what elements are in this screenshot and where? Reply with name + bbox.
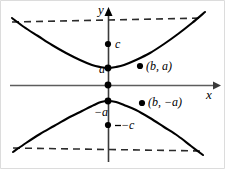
point-focus-lower — [105, 122, 111, 128]
label-point-b-minus-a: (b, −a) — [148, 96, 182, 108]
point-vertex-upper — [105, 65, 112, 72]
x-axis-label: x — [206, 88, 212, 101]
label-focus-lower-minus-c: −c — [121, 119, 134, 131]
label-vertex-upper-a: a — [99, 63, 105, 75]
y-axis-label: y — [98, 3, 104, 16]
point-origin — [105, 82, 112, 89]
marked-points — [105, 41, 145, 128]
label-point-b-a: (b, a) — [146, 60, 172, 72]
point-b-minus-a — [139, 100, 145, 106]
label-vertex-lower-minus-a: −a — [94, 106, 108, 118]
label-focus-upper-c: c — [115, 38, 120, 50]
hyperbola-figure: y x c a −a −c (b, a) (b, −a) — [0, 0, 225, 169]
point-focus-upper — [105, 41, 111, 47]
point-b-a — [137, 63, 143, 69]
x-axis — [10, 82, 221, 90]
figure-border — [1, 1, 225, 169]
point-vertex-lower — [105, 98, 112, 105]
hyperbola-plot — [0, 0, 225, 169]
